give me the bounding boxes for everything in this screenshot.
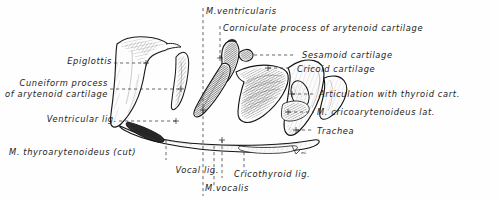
label-corniculate-process: Corniculate process of arytenoid cartila… [223, 23, 423, 34]
label-articulation-thyroid: Articulation with thyroid cart. [319, 89, 460, 100]
label-cricothyroid-lig: Cricothyroid lig. [234, 169, 310, 180]
cross-ventricular [173, 118, 179, 124]
epiglottis-shape [110, 37, 181, 127]
label-m-vocalis: M.vocalis [205, 183, 249, 194]
label-thyroarytenoideus: M. thyroarytenoideus (cut) [9, 147, 136, 158]
label-sesamoid-cartilage: Sesamoid cartilage [302, 50, 393, 61]
svg-text:mL: mL [301, 151, 307, 155]
label-cricoid-cartilage: Cricoid cartilage [297, 64, 375, 75]
label-trachea: Trachea [317, 126, 354, 137]
cuneiform-process-shape [171, 52, 188, 109]
anatomical-plate: mL [0, 0, 500, 200]
label-m-ventricularis: M.ventricularis [206, 6, 277, 17]
label-epiglottis: Epiglottis [0, 56, 112, 67]
label-cuneiform-process-line1: Cuneiform process [0, 78, 108, 89]
label-ventricular-lig: Ventricular lig. [0, 114, 117, 125]
label-cricoarytenoideus-lat: M. cricoarytenoideus lat. [317, 107, 435, 118]
thyroid-lamina-shape [236, 65, 288, 122]
cross-vocal-lig [219, 137, 225, 143]
label-cuneiform-process-line2: of arytenoid cartilage [0, 89, 108, 100]
arytenoid-corniculate-shape [194, 39, 239, 117]
label-vocal-lig: Vocal lig. [60, 165, 219, 176]
sesamoid-cartilage-shape [239, 49, 253, 61]
